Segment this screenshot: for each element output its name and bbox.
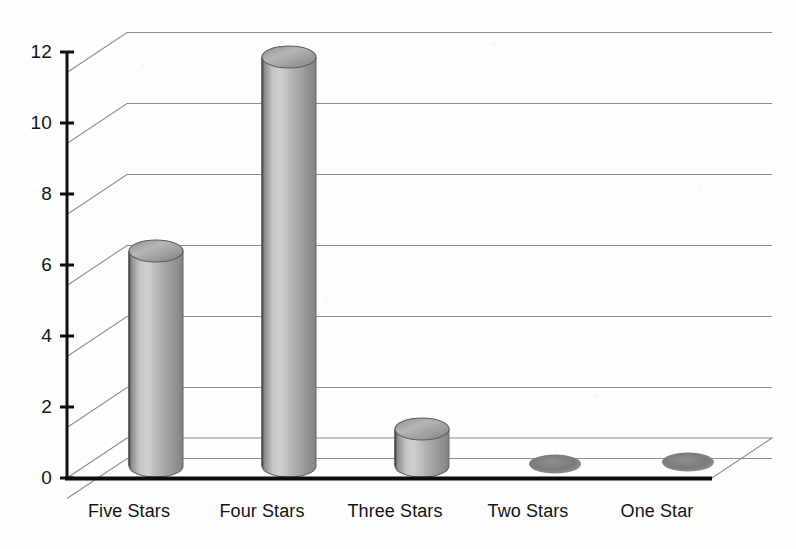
category-label-one-star: One Star xyxy=(621,501,694,522)
category-label-four-stars: Four Stars xyxy=(219,501,304,522)
bar-five-stars[interactable] xyxy=(129,240,183,477)
y-tick-label: 4 xyxy=(41,325,52,347)
y-tick-label: 6 xyxy=(41,254,52,276)
y-tick-label: 2 xyxy=(41,396,52,418)
value-axis xyxy=(60,52,74,478)
bar-one-star[interactable] xyxy=(662,453,714,472)
y-tick-label: 10 xyxy=(30,112,52,134)
y-tick-label: 8 xyxy=(41,183,52,205)
chart-plot-area xyxy=(0,0,796,549)
bar-two-stars[interactable] xyxy=(529,455,581,474)
chart-container: 12 10 8 6 4 2 0 Five Stars Four Stars Th… xyxy=(0,0,796,549)
category-label-two-stars: Two Stars xyxy=(488,501,569,522)
y-tick-label: 0 xyxy=(41,467,52,489)
y-tick-label: 12 xyxy=(30,41,52,63)
category-label-three-stars: Three Stars xyxy=(347,501,442,522)
value-axis-labels: 12 10 8 6 4 2 0 xyxy=(0,0,52,549)
category-label-five-stars: Five Stars xyxy=(88,501,170,522)
bar-four-stars[interactable] xyxy=(262,46,316,477)
bar-three-stars[interactable] xyxy=(395,418,449,477)
